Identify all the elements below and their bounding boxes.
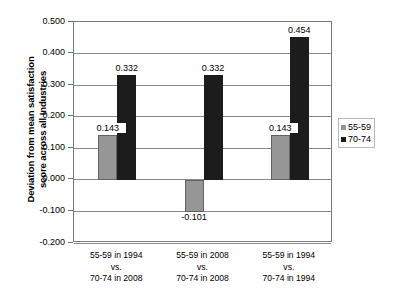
legend-item-55-59[interactable]: 55-59: [341, 121, 371, 133]
legend-label-70-74: 70-74: [348, 135, 371, 144]
bar-55-59-group-3: [271, 135, 290, 180]
gridline: [74, 243, 331, 244]
legend-swatch-icon-70-74: [341, 137, 346, 142]
y-axis-tick-label: 0.300: [25, 80, 65, 89]
legend-swatch-icon-55-59: [341, 125, 346, 130]
y-axis-tick-label: -0.200: [25, 238, 65, 247]
bar-value-label: 0.332: [195, 63, 231, 73]
x-axis-category-label: 55-59 in 1994 vs. 70-74 in 1994: [239, 250, 339, 285]
bar-chart: Deviation from mean satisfaction score a…: [0, 0, 396, 299]
x-axis-category-label: 55-59 in 1994 vs. 70-74 in 2008: [66, 250, 166, 285]
legend-label-55-59: 55-59: [348, 123, 371, 132]
y-axis-tick-label: 0.500: [25, 17, 65, 26]
y-axis-tick-label: -0.100: [25, 206, 65, 215]
y-axis-tick-label: 0.000: [25, 174, 65, 183]
chart-legend: 55-59 70-74: [338, 118, 375, 148]
bar-70-74-group-3: [290, 37, 309, 180]
y-axis-tick-label: 0.400: [25, 48, 65, 57]
bar-value-label: 0.454: [281, 25, 317, 35]
x-axis-category-label: 55-59 in 2008 vs. 70-74 in 2008: [153, 250, 253, 285]
bar-value-label: 0.143: [262, 123, 298, 133]
bar-value-label: -0.101: [176, 212, 212, 222]
legend-item-70-74[interactable]: 70-74: [341, 133, 371, 145]
bar-55-59-group-1: [98, 135, 117, 180]
y-axis-tick-label: 0.200: [25, 111, 65, 120]
bar-70-74-group-2: [204, 75, 223, 180]
y-axis-tick-label: 0.100: [25, 143, 65, 152]
bar-value-label: 0.332: [109, 63, 145, 73]
bar-55-59-group-2: [185, 180, 204, 212]
bar-value-label: 0.143: [90, 123, 126, 133]
